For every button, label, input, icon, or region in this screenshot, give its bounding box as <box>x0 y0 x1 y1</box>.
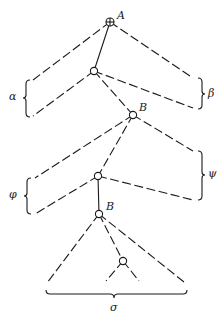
diagram-svg <box>0 0 224 316</box>
edge-b1-n2 <box>98 115 133 176</box>
label-sigma: σ <box>110 302 118 313</box>
edges-b1 <box>35 115 193 178</box>
label-psi: ψ <box>208 168 217 179</box>
node-n1 <box>90 67 97 74</box>
label-beta: β <box>208 88 214 99</box>
brace-sigma <box>46 290 187 298</box>
edges-b2 <box>47 214 184 283</box>
edge-n1-left <box>33 71 94 116</box>
label-b-upper: B <box>139 102 147 113</box>
node-a <box>106 18 114 26</box>
tree-diagram: A B B α β φ ψ σ <box>0 0 224 316</box>
node-n2 <box>94 172 101 179</box>
edge-n1-b1 <box>94 71 133 115</box>
edge-b2-right <box>99 214 184 282</box>
label-alpha: α <box>9 91 16 102</box>
edge-a-left <box>33 22 110 80</box>
brace-beta <box>198 78 205 109</box>
edge-n2-right <box>98 176 193 200</box>
brace-alpha <box>23 80 30 117</box>
node-b-upper <box>129 111 136 118</box>
brace-psi <box>198 151 205 200</box>
node-n3 <box>119 257 126 264</box>
node-b-lower <box>95 210 102 217</box>
brace-phi <box>24 178 31 214</box>
edge-a-right <box>110 22 193 78</box>
edge-n2-b2 <box>98 176 99 214</box>
edge-n2-left <box>35 176 98 214</box>
edge-b2-left <box>47 214 99 283</box>
label-phi: φ <box>9 189 17 200</box>
label-b-lower: B <box>106 201 114 212</box>
edges-n1 <box>33 71 193 116</box>
edge-b2-n3 <box>99 214 123 261</box>
edge-b1-left <box>35 115 133 178</box>
edges-root <box>33 22 193 80</box>
edge-a-n1 <box>94 22 110 71</box>
label-a: A <box>117 10 125 21</box>
edge-b1-right <box>133 115 193 151</box>
